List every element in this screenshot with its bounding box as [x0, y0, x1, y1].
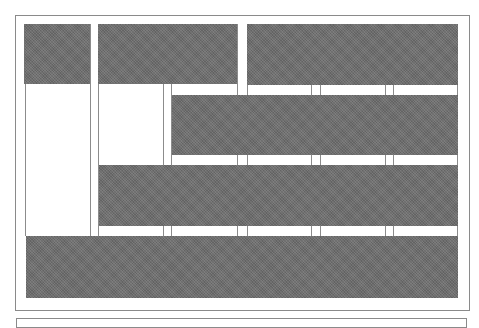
block-f: [26, 236, 458, 298]
block-d: [172, 95, 458, 155]
block-c: [247, 24, 458, 85]
block-a: [24, 24, 90, 84]
block-e: [99, 165, 458, 226]
grid-line: [90, 24, 91, 236]
block-b: [98, 24, 237, 84]
lower-frame: [16, 318, 467, 328]
